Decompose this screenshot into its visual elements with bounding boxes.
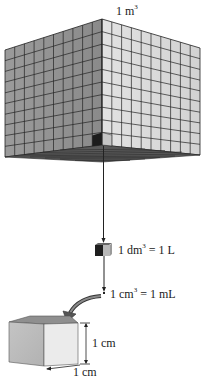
cm-cube-front-face <box>9 322 44 366</box>
highlighted-cubic-decimeter-right <box>102 132 112 146</box>
cm-label-prefix: 1 cm <box>110 287 134 301</box>
cubic-meter-label-base: 1 m <box>116 4 134 18</box>
cubic-decimeter-cube <box>95 243 112 256</box>
height-dimension <box>80 323 90 364</box>
arrowhead-down-icon-2 <box>102 287 106 292</box>
height-arrow-top-icon <box>84 323 88 327</box>
dm-label-suffix: = 1 L <box>146 243 175 257</box>
dm-label-exp: 3 <box>142 242 146 250</box>
cubic-meter-cube <box>5 19 200 162</box>
cm-label-exp: 3 <box>134 286 138 294</box>
width-label: 1 cm <box>73 366 97 378</box>
dm-label-prefix: 1 dm <box>118 243 142 257</box>
cubic-decimeter-label: 1 dm3 = 1 L <box>118 244 175 256</box>
cm-cube-right-face <box>44 323 78 366</box>
cubic-centimeter-cube <box>9 316 78 366</box>
height-label: 1 cm <box>92 337 116 349</box>
cubic-centimeter-dot <box>103 292 105 294</box>
cubic-centimeter-label: 1 cm3 = 1 mL <box>110 288 176 300</box>
cubic-meter-label: 1 m3 <box>116 5 138 17</box>
height-arrow-bottom-icon <box>84 360 88 364</box>
cm-label-suffix: = 1 mL <box>137 287 175 301</box>
cubic-meter-label-exp: 3 <box>134 3 138 11</box>
volume-diagram <box>0 0 202 386</box>
arrowhead-down-icon <box>102 238 106 243</box>
width-arrow-left-icon <box>46 367 51 371</box>
